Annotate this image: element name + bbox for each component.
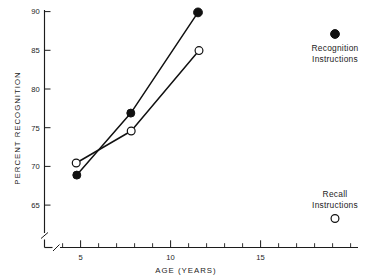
y-tick-label-85: 85 [31, 46, 40, 55]
recall-point-1 [72, 159, 80, 167]
x-tick-label-5: 5 [78, 253, 82, 262]
x-tick-label-15: 15 [256, 253, 265, 262]
y-axis-title: PERCENT RECOGNITION [13, 71, 22, 184]
recall-line [76, 51, 199, 163]
x-minor-ticks [63, 243, 351, 247]
x-major-ticks [81, 240, 261, 247]
legend-recognition[interactable]: Recognition Instructions [312, 30, 359, 64]
y-tick-label-65: 65 [31, 201, 40, 210]
recall-point-3 [195, 47, 203, 55]
x-tick-labels: 5 10 15 [78, 253, 265, 262]
recognition-line [77, 12, 198, 175]
legend-recognition-line2: Instructions [312, 54, 358, 64]
x-tick-label-10: 10 [166, 253, 175, 262]
y-ticks [45, 12, 51, 206]
legend-recall-line1: Recall [323, 189, 348, 199]
filled-circle-marker-icon [331, 30, 340, 39]
y-tick-label-80: 80 [31, 85, 40, 94]
series-recall [72, 47, 203, 167]
recognition-point-2 [127, 109, 135, 117]
y-tick-label-70: 70 [31, 162, 40, 171]
x-axis-title: AGE (YEARS) [155, 266, 216, 275]
recognition-point-1 [73, 171, 81, 179]
y-tick-labels: 90 85 80 75 70 65 [31, 7, 40, 210]
y-tick-label-90: 90 [31, 7, 40, 16]
legend-recall-line2: Instructions [312, 200, 358, 210]
legend-recall[interactable]: Recall Instructions [312, 189, 358, 223]
y-axis-group [41, 10, 48, 248]
open-circle-marker-icon [331, 215, 339, 223]
x-axis-break-mark [53, 245, 60, 252]
legend-recognition-line1: Recognition [312, 43, 359, 53]
recall-point-2 [127, 127, 135, 135]
y-axis-break-mark [41, 233, 48, 239]
chart-canvas: 90 85 80 75 70 65 PERCENT RECOGNITION [0, 0, 365, 279]
x-axis-group [45, 245, 359, 252]
y-tick-label-75: 75 [31, 124, 40, 133]
recognition-point-3 [194, 8, 203, 17]
chart-figure: 90 85 80 75 70 65 PERCENT RECOGNITION [0, 0, 365, 279]
